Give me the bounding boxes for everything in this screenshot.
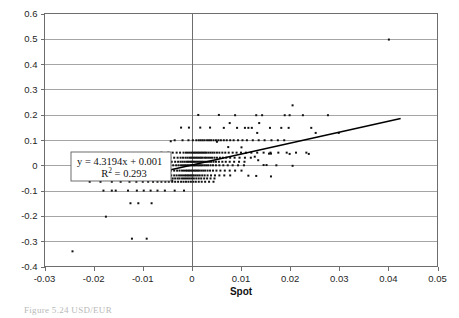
- data-point: [204, 139, 206, 141]
- data-point: [229, 174, 231, 176]
- data-point: [156, 190, 158, 192]
- data-point: [215, 164, 217, 166]
- data-point: [173, 157, 175, 159]
- data-point: [200, 177, 202, 179]
- data-point: [150, 190, 152, 192]
- data-point: [203, 164, 205, 166]
- data-point: [129, 202, 131, 204]
- data-point: [277, 139, 279, 141]
- data-point: [201, 181, 203, 183]
- data-point: [193, 177, 195, 179]
- data-point: [247, 127, 249, 129]
- data-point: [210, 177, 212, 179]
- data-point: [243, 161, 245, 163]
- data-point: [198, 177, 200, 179]
- y-tick-label: 0: [32, 160, 37, 171]
- data-point: [220, 139, 222, 141]
- data-point: [136, 190, 138, 192]
- data-point: [263, 152, 265, 154]
- data-point: [243, 164, 245, 166]
- data-point: [177, 181, 179, 183]
- data-point: [177, 177, 179, 179]
- data-point: [102, 190, 104, 192]
- x-axis-title: Spot: [230, 286, 253, 297]
- data-point: [170, 140, 172, 142]
- data-point: [233, 161, 235, 163]
- data-point: [164, 190, 166, 192]
- data-point: [219, 170, 221, 172]
- data-point: [256, 132, 258, 134]
- data-point: [174, 190, 176, 192]
- data-points: [72, 39, 390, 253]
- data-point: [224, 170, 226, 172]
- data-point: [213, 177, 215, 179]
- data-point: [232, 152, 234, 154]
- data-point: [210, 164, 212, 166]
- data-point: [254, 156, 256, 158]
- data-point: [244, 127, 246, 129]
- data-point: [238, 161, 240, 163]
- data-point: [207, 170, 209, 172]
- data-point: [229, 122, 231, 124]
- data-point: [310, 127, 312, 129]
- data-point: [201, 164, 203, 166]
- data-point: [208, 152, 210, 154]
- data-point: [173, 174, 175, 176]
- data-point: [186, 157, 188, 159]
- data-point: [270, 139, 272, 141]
- data-point: [212, 152, 214, 154]
- y-tick-label: 0.1: [24, 135, 37, 146]
- data-point: [258, 122, 260, 124]
- data-point: [187, 177, 189, 179]
- data-point: [283, 139, 285, 141]
- y-tick-label: 0.5: [24, 33, 37, 44]
- data-point: [228, 152, 230, 154]
- data-point: [292, 165, 294, 167]
- data-point: [177, 157, 179, 159]
- data-point: [193, 174, 195, 176]
- data-point: [239, 157, 241, 159]
- data-point: [261, 114, 263, 116]
- data-point: [308, 153, 310, 155]
- y-tick-label: -0.2: [21, 210, 37, 221]
- x-tick-label: 0.02: [281, 273, 300, 284]
- data-point: [111, 190, 113, 192]
- data-point: [213, 157, 215, 159]
- data-point: [182, 174, 184, 176]
- data-point: [266, 164, 268, 166]
- data-point: [203, 177, 205, 179]
- data-point: [227, 164, 229, 166]
- data-point: [233, 139, 235, 141]
- data-point: [172, 164, 174, 166]
- data-point: [236, 127, 238, 129]
- data-point: [202, 139, 204, 141]
- data-point: [204, 170, 206, 172]
- data-point: [247, 175, 249, 177]
- data-point: [252, 139, 254, 141]
- data-point: [179, 170, 181, 172]
- data-point: [212, 139, 214, 141]
- data-point: [176, 170, 178, 172]
- data-point: [208, 181, 210, 183]
- data-point: [277, 152, 279, 154]
- data-point: [258, 139, 260, 141]
- data-point: [207, 164, 209, 166]
- x-tick-label: 0.05: [428, 273, 447, 284]
- data-point: [184, 157, 186, 159]
- data-point: [210, 152, 212, 154]
- data-point: [210, 174, 212, 176]
- data-point: [218, 114, 220, 116]
- data-point: [255, 114, 257, 116]
- data-point: [180, 174, 182, 176]
- data-point: [179, 177, 181, 179]
- data-point: [183, 181, 185, 183]
- data-point: [237, 139, 239, 141]
- data-point: [204, 181, 206, 183]
- y-tick-label: 0.3: [24, 84, 37, 95]
- gridlines: [45, 40, 438, 242]
- data-point: [182, 164, 184, 166]
- data-point: [182, 157, 184, 159]
- y-tick-label: 0.6: [24, 8, 37, 19]
- data-point: [189, 177, 191, 179]
- data-point: [223, 127, 225, 129]
